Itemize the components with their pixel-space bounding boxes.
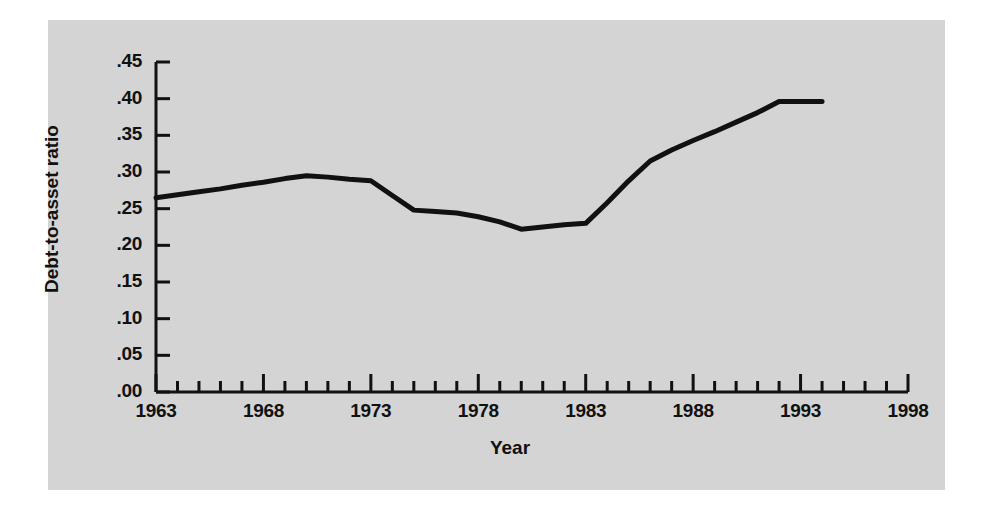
x-tick-label: 1983 [541, 400, 631, 422]
data-line-0 [156, 102, 822, 230]
y-tick-label: .25 [82, 197, 142, 219]
y-tick-label: .30 [82, 160, 142, 182]
x-tick-label: 1978 [433, 400, 523, 422]
x-tick-label: 1968 [218, 400, 308, 422]
y-tick-label: .35 [82, 123, 142, 145]
y-tick-label: .00 [82, 380, 142, 402]
y-tick-label: .20 [82, 233, 142, 255]
data-series-group [156, 102, 822, 230]
x-axis-title: Year [420, 437, 600, 459]
chart-figure: .45.40.35.30.25.20.15.10.05.00 196319681… [0, 0, 991, 517]
y-tick-label: .40 [82, 87, 142, 109]
x-tick-label: 1963 [111, 400, 201, 422]
y-tick-label: .10 [82, 307, 142, 329]
x-tick-label: 1973 [326, 400, 416, 422]
x-tick-label: 1993 [756, 400, 846, 422]
x-tick-label: 1998 [863, 400, 953, 422]
y-axis-title: Debt-to-asset ratio [41, 124, 63, 294]
x-tick-label: 1988 [648, 400, 738, 422]
y-tick-label: .15 [82, 270, 142, 292]
y-tick-label: .05 [82, 343, 142, 365]
y-tick-label: .45 [82, 50, 142, 72]
